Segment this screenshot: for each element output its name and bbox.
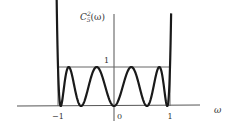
x-axis: [17, 105, 200, 106]
x-tick-label: 1: [167, 112, 172, 121]
x-tick-label: −1: [52, 112, 64, 121]
y-axis-label: C25(ω): [80, 10, 105, 23]
y-label-arg: (ω): [91, 12, 105, 22]
x-axis-label: ω: [214, 105, 222, 115]
chart: −101 1 C25(ω) ω: [0, 0, 233, 127]
x-tick-label: 0: [117, 112, 122, 121]
y-tick-label: 1: [104, 56, 109, 65]
